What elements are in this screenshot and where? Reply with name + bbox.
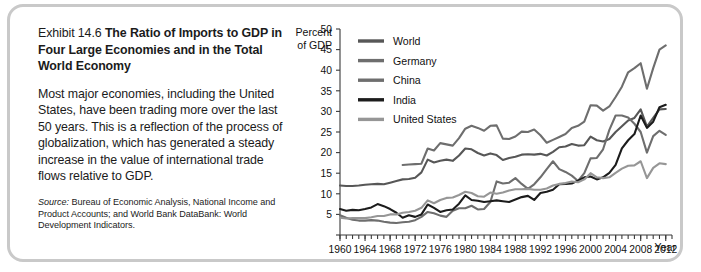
y-tick-label: 45 (321, 44, 333, 55)
y-tick-label: 25 (321, 127, 333, 138)
y-tick-label: 5 (326, 209, 332, 220)
caption-column: Exhibit 14.6 The Ratio of Imports to GDP… (38, 25, 288, 232)
exhibit-panel: Exhibit 14.6 The Ratio of Imports to GDP… (7, 4, 683, 262)
y-tick-label: 50 (321, 24, 333, 35)
source-label: Source: (38, 197, 69, 207)
x-tick-label: 2008 (629, 244, 652, 255)
x-tick-label: 1988 (504, 244, 527, 255)
legend-label-united-states: United States (393, 113, 457, 125)
x-tick-label: 1992 (529, 244, 552, 255)
y-tick-label: 40 (321, 65, 333, 76)
exhibit-label: Exhibit 14.6 (38, 26, 102, 40)
page-title: Exhibit 14.6 The Ratio of Imports to GDP… (38, 25, 288, 75)
y-tick-label: 10 (321, 189, 333, 200)
x-tick-label: 1976 (429, 244, 452, 255)
y-tick-label: 15 (321, 168, 333, 179)
line-chart: Percent of GDP 5101520253035404550196019… (280, 17, 680, 263)
legend-label-germany: Germany (393, 55, 437, 67)
y-tick-label: 35 (321, 86, 333, 97)
x-tick-label: 1980 (454, 244, 477, 255)
caption-body: Most major economies, including the Unit… (38, 86, 288, 186)
x-axis-title: Year (655, 241, 676, 253)
x-tick-label: 1972 (404, 244, 427, 255)
x-tick-label: 1968 (379, 244, 402, 255)
y-tick-label: 20 (321, 147, 333, 158)
x-tick-label: 1984 (479, 244, 502, 255)
legend-label-world: World (393, 35, 421, 47)
legend-label-india: India (393, 94, 416, 106)
x-tick-label: 2000 (579, 244, 602, 255)
legend-label-china: China (393, 74, 421, 86)
source-text: Bureau of Economic Analysis, National In… (38, 197, 275, 230)
axis-spine (340, 29, 672, 235)
x-tick-label: 2004 (604, 244, 627, 255)
x-tick-label: 1960 (329, 244, 352, 255)
x-tick-label: 1964 (354, 244, 377, 255)
caption-source: Source: Bureau of Economic Analysis, Nat… (38, 197, 288, 232)
y-tick-label: 30 (321, 106, 333, 117)
chart-plot-area: 5101520253035404550196019641968197219761… (280, 17, 680, 263)
series-line-india (340, 105, 666, 218)
x-tick-label: 1996 (554, 244, 577, 255)
series-line-germany (403, 45, 666, 164)
series-line-united-states (340, 161, 666, 218)
series-line-world (340, 109, 666, 186)
